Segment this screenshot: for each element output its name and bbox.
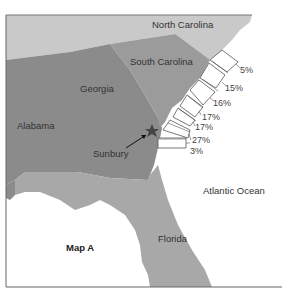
map-a [0,0,282,294]
map-title: Map A [66,242,94,253]
label-atlantic-ocean: Atlantic Ocean [203,185,265,196]
label-sunbury: Sunbury [93,148,128,159]
segment-value: 15% [225,83,243,93]
segment-value: 17% [195,122,213,132]
segment-value: 16% [213,98,231,108]
label-florida: Florida [158,233,187,244]
label-alabama: Alabama [17,120,55,131]
label-south-carolina: South Carolina [130,56,193,67]
label-georgia: Georgia [80,83,114,94]
segment-value: 27% [192,135,210,145]
label-north-carolina: North Carolina [152,19,213,30]
segment-value: 5% [240,65,253,75]
segment-value: 17% [202,112,220,122]
segment-value: 3% [190,146,203,156]
